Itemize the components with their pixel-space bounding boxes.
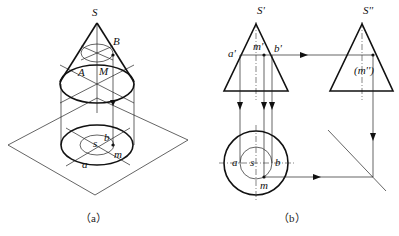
- cone-projection-figure: S B A M s b m a （a） S' a' m' b': [0, 0, 399, 236]
- label-s: s: [93, 137, 97, 149]
- label-m-double-prime: (m''): [354, 64, 374, 77]
- label-b-prime: b': [274, 42, 283, 54]
- caption-a: （a）: [80, 212, 107, 224]
- label-S-prime: S': [257, 4, 266, 16]
- top-view: a s b m: [219, 125, 373, 202]
- label-b-top: b: [275, 156, 281, 168]
- label-b: b: [104, 131, 110, 143]
- point-M: [111, 53, 114, 56]
- panel-a-pictorial: S B A M s b m a （a）: [8, 6, 188, 224]
- label-M: M: [98, 65, 109, 77]
- label-S-double-prime: S'': [363, 4, 374, 16]
- caption-b: （b）: [278, 212, 306, 224]
- arrow-down-icon: [261, 102, 267, 110]
- label-a: a: [82, 158, 88, 170]
- side-view: S'' (m''): [328, 4, 393, 191]
- side-triangle: [330, 24, 393, 91]
- arrow-right-icon: [313, 174, 321, 180]
- arrow-down-icon: [269, 102, 275, 110]
- label-a-top: a: [232, 156, 238, 168]
- arrow-down-icon: [237, 102, 243, 110]
- label-A: A: [77, 66, 85, 78]
- miter-line-45: [328, 130, 386, 191]
- label-S: S: [92, 6, 98, 18]
- label-m-top: m: [260, 179, 268, 191]
- label-a-prime: a': [228, 47, 237, 59]
- label-s-top: s: [250, 156, 254, 168]
- arrow-down-icon: [110, 100, 116, 106]
- panel-b-orthographic: S' a' m' b' a s b m S'': [219, 4, 393, 224]
- label-m: m: [114, 148, 122, 160]
- arrow-right-icon: [300, 52, 308, 58]
- arrow-down-icon: [370, 133, 376, 141]
- label-B: B: [113, 35, 120, 47]
- label-m-prime: m': [253, 40, 264, 52]
